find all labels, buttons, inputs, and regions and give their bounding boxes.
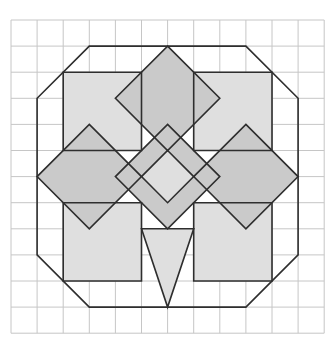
diagram-page	[0, 0, 334, 347]
grid-figure-svg	[0, 0, 334, 347]
grid-figure-container	[0, 0, 334, 347]
